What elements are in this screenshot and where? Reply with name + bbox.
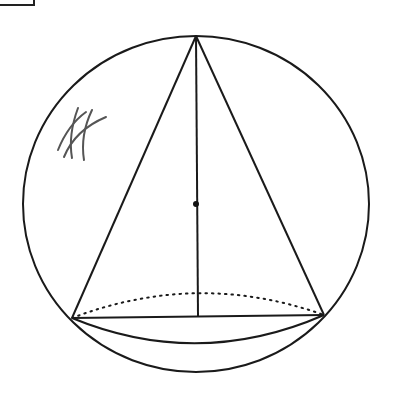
cone-axis [196, 36, 198, 316]
cone-left-side [72, 36, 196, 318]
hatch-mark-icon [58, 108, 106, 160]
sphere-center-point [193, 201, 199, 207]
cone-right-side [196, 36, 324, 315]
base-front-arc [72, 315, 324, 343]
cone-in-sphere-diagram [0, 0, 394, 396]
